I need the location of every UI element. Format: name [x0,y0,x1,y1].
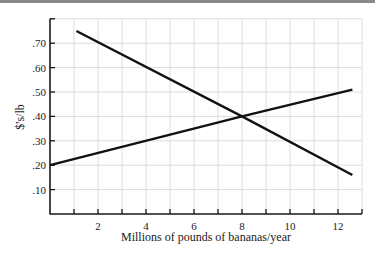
y-tick-label: .60 [32,62,46,74]
x-tick-label: 2 [95,220,101,232]
y-tick-label: .20 [32,159,46,171]
chart: 24681012 .10.20.30.40.50.60.70 Millions … [0,0,375,253]
data-series [50,31,352,175]
y-tick-label: .10 [32,184,46,196]
y-tick-label: .40 [32,110,46,122]
x-tick-label: 12 [333,220,344,232]
downward-sloping-line [76,31,352,175]
y-tick-labels: .10.20.30.40.50.60.70 [32,37,46,195]
tick-marks [50,43,362,214]
y-tick-label: .30 [32,135,46,147]
y-axis-title: $'s/lb [13,104,27,130]
x-axis-title: Millions of pounds of bananas/year [121,230,291,244]
grid-lines [50,19,362,214]
y-tick-label: .70 [32,37,46,49]
y-tick-label: .50 [32,86,46,98]
upward-sloping-line [50,90,352,166]
